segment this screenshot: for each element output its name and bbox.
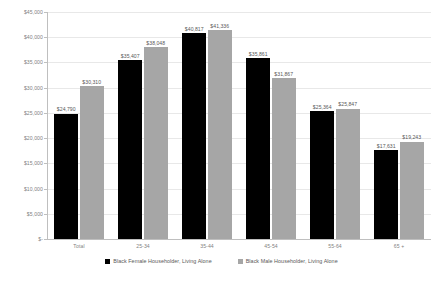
bar-female[interactable]: $24,790 <box>54 114 78 239</box>
x-axis-tick-label: Total <box>73 243 84 249</box>
bar-female[interactable]: $25,364 <box>310 111 334 239</box>
legend-label: Black Female Householder, Living Alone <box>113 258 211 264</box>
bar-value-label: $24,790 <box>57 106 76 112</box>
y-axis-tick-label: $45,000 <box>24 9 43 15</box>
bar-value-label: $25,847 <box>338 101 357 107</box>
bar-value-label: $41,336 <box>210 23 229 29</box>
y-axis-tick-label: $25,000 <box>24 110 43 116</box>
y-axis-tick-label: $40,000 <box>24 34 43 40</box>
y-axis-tick-label: $10,000 <box>24 186 43 192</box>
legend-item[interactable]: Black Female Householder, Living Alone <box>105 258 211 264</box>
x-axis-tick-label: 35-44 <box>200 243 214 249</box>
bar-value-label: $30,310 <box>82 79 101 85</box>
bar-female[interactable]: $40,817 <box>182 33 206 239</box>
bar-male[interactable]: $41,336 <box>208 30 232 239</box>
x-axis-tick-label: 55-64 <box>328 243 342 249</box>
x-axis-tick-label: 65 + <box>394 243 404 249</box>
x-axis-tick-label: 25-34 <box>136 243 150 249</box>
bar-group: $24,790$30,310Total <box>47 11 111 239</box>
x-axis-line <box>47 239 431 240</box>
bar-male[interactable]: $31,867 <box>272 78 296 239</box>
y-axis-tick-label: $- <box>38 236 43 242</box>
y-axis-tick-label: $30,000 <box>24 85 43 91</box>
y-axis-tick-label: $15,000 <box>24 160 43 166</box>
bar-value-label: $40,817 <box>185 26 204 32</box>
legend-swatch-female <box>105 259 110 264</box>
bar-group: $35,407$38,04825-34 <box>111 11 175 239</box>
bar-value-label: $25,364 <box>313 104 332 110</box>
bar-value-label: $35,407 <box>121 53 140 59</box>
bar-male[interactable]: $19,243 <box>400 142 424 239</box>
bar-value-label: $38,048 <box>146 40 165 46</box>
bar-male[interactable]: $25,847 <box>336 109 360 239</box>
bar-group: $40,817$41,33635-44 <box>175 11 239 239</box>
plot-area: $-$5,000$10,000$15,000$20,000$25,000$30,… <box>47 12 431 240</box>
bar-value-label: $35,861 <box>249 51 268 57</box>
y-axis-tick-label: $35,000 <box>24 59 43 65</box>
bar-female[interactable]: $35,407 <box>118 60 142 239</box>
chart-legend: Black Female Householder, Living AloneBl… <box>0 258 443 264</box>
bar-female[interactable]: $35,861 <box>246 58 270 239</box>
bar-group: $35,861$31,86745-54 <box>239 11 303 239</box>
bar-value-label: $17,631 <box>377 143 396 149</box>
bar-male[interactable]: $30,310 <box>80 86 104 239</box>
bar-value-label: $31,867 <box>274 71 293 77</box>
legend-swatch-male <box>238 259 243 264</box>
bar-group: $17,631$19,24365 + <box>367 11 431 239</box>
bar-male[interactable]: $38,048 <box>144 47 168 239</box>
x-axis-tick-label: 45-54 <box>264 243 278 249</box>
y-axis-tick-label: $20,000 <box>24 135 43 141</box>
bar-group: $25,364$25,84755-64 <box>303 11 367 239</box>
legend-item[interactable]: Black Male Householder, Living Alone <box>238 258 338 264</box>
legend-label: Black Male Householder, Living Alone <box>246 258 338 264</box>
y-axis-tick-label: $5,000 <box>27 211 43 217</box>
chart-page: $-$5,000$10,000$15,000$20,000$25,000$30,… <box>0 0 443 288</box>
bar-value-label: $19,243 <box>402 134 421 140</box>
bar-female[interactable]: $17,631 <box>374 150 398 239</box>
